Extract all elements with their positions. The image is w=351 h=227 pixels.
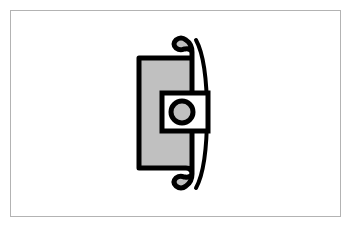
center-bore-circle: [171, 101, 193, 123]
technical-drawing-canvas: [0, 0, 351, 227]
figure-root: Cross-section profile of a mechanical se…: [0, 0, 351, 227]
